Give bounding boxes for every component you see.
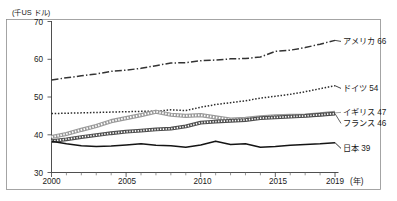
y-tick-label-60: 60 [34, 55, 44, 64]
x-tick-label-2005: 2005 [118, 177, 137, 186]
x-axis-labels: 2000 2005 2010 2015 2019 (年) [42, 176, 363, 186]
y-axis-unit-label: (千US ドル) [12, 8, 50, 17]
chart-frame [7, 20, 381, 190]
leader-line-日本 [335, 143, 341, 149]
chart-container: (千US ドル) 70 60 50 40 30 2000 2005 2010 [0, 0, 397, 201]
series-label-germany: ドイツ 54 [343, 84, 379, 93]
x-tick-label-2019: 2019 [326, 177, 345, 186]
line-chart: (千US ドル) 70 60 50 40 30 2000 2005 2010 [0, 0, 397, 201]
y-axis-ticks: 70 60 50 40 30 [34, 18, 52, 178]
leader-line-アメリカ [335, 40, 341, 41]
series-line-アメリカ [52, 40, 336, 80]
y-tick-label-50: 50 [34, 93, 44, 102]
leader-line-フランス [335, 114, 341, 124]
x-tick-label-2010: 2010 [193, 177, 212, 186]
x-tick-label-2000: 2000 [42, 177, 61, 186]
series-label-america: アメリカ 66 [343, 37, 387, 46]
series-lines [52, 40, 342, 148]
y-tick-label-40: 40 [34, 131, 44, 140]
y-tick-label-70: 70 [34, 18, 44, 27]
series-line-日本 [52, 141, 336, 147]
x-tick-label-2015: 2015 [269, 177, 288, 186]
series-label-japan: 日本 39 [343, 143, 371, 153]
x-axis-unit-label: (年) [350, 176, 364, 186]
leader-line-ドイツ [335, 86, 341, 89]
series-label-uk: イギリス 47 [343, 108, 387, 117]
axes [52, 21, 339, 173]
series-line-ドイツ [52, 86, 336, 114]
series-label-france: フランス 46 [343, 119, 387, 128]
axis-lines [52, 21, 339, 173]
